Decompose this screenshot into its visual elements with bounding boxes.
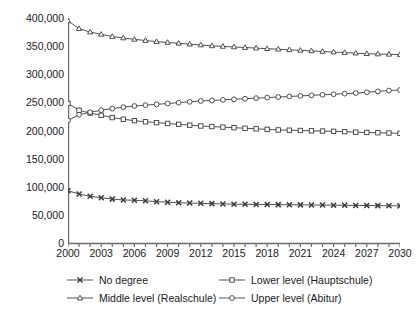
y-axis-tick-label: 150,000: [26, 153, 64, 164]
plot-area: [68, 18, 400, 243]
legend-symbol-x-icon: [66, 274, 94, 286]
y-axis-tick-label: 50,000: [32, 210, 64, 221]
legend-label: Middle level (Realschule): [99, 293, 216, 304]
x-axis-tick-label: 2000: [56, 248, 79, 259]
x-axis-tick-label: 2012: [189, 248, 212, 259]
legend-symbol-triangle-icon: [66, 292, 94, 304]
x-axis-tick-label: 2015: [222, 248, 245, 259]
chart-legend: No degree Middle level (Realschule) Lowe…: [0, 272, 419, 316]
x-axis-tick-label: 2006: [123, 248, 146, 259]
legend-label: Upper level (Abitur): [251, 293, 341, 304]
x-axis-tick-label: 2003: [90, 248, 113, 259]
x-axis-tick-labels: 2000200320062009201220152018202120242027…: [0, 246, 419, 264]
y-axis-tick-label: 300,000: [26, 69, 64, 80]
legend-symbol-circle-icon: [218, 292, 246, 304]
y-axis-tick-label: 400,000: [26, 13, 64, 24]
legend-item-no-degree[interactable]: No degree: [66, 274, 148, 286]
x-axis-tick-label: 2021: [289, 248, 312, 259]
legend-item-upper-level[interactable]: Upper level (Abitur): [218, 292, 341, 304]
legend-label: No degree: [99, 275, 148, 286]
y-axis-tick-label: 250,000: [26, 97, 64, 108]
legend-item-middle-level[interactable]: Middle level (Realschule): [66, 292, 216, 304]
y-axis-tick-label: 100,000: [26, 182, 64, 193]
x-axis-tick-label: 2018: [256, 248, 279, 259]
y-axis-tick-labels: 050,000100,000150,000200,000250,000300,0…: [0, 0, 64, 261]
x-axis-tick-label: 2024: [322, 248, 345, 259]
chart-figure: 050,000100,000150,000200,000250,000300,0…: [0, 0, 419, 319]
legend-symbol-square-icon: [218, 274, 246, 286]
y-axis-tick-label: 350,000: [26, 41, 64, 52]
y-axis-tick-label: 200,000: [26, 125, 64, 136]
legend-label: Lower level (Hauptschule): [251, 275, 372, 286]
x-axis-tick-label: 2027: [355, 248, 378, 259]
x-axis-tick-label: 2030: [388, 248, 411, 259]
legend-item-lower-level[interactable]: Lower level (Hauptschule): [218, 274, 372, 286]
x-axis-tick-label: 2009: [156, 248, 179, 259]
chart-svg: [68, 18, 400, 258]
